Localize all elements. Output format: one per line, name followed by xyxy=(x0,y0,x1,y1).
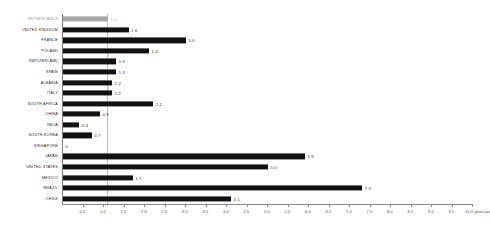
bar-value-label: 0 xyxy=(66,143,68,148)
x-tick-mark xyxy=(124,204,125,207)
x-tick-mark xyxy=(431,204,432,207)
x-tick-mark xyxy=(247,204,248,207)
bar xyxy=(63,38,186,43)
x-tick-mark xyxy=(329,204,330,207)
x-tick-label: 9.0 xyxy=(428,209,434,214)
x-tick-label: 6.0 xyxy=(305,209,311,214)
x-tick-label: 6.5 xyxy=(326,209,332,214)
x-tick-label: 0.5 xyxy=(80,209,86,214)
x-tick-mark xyxy=(206,204,207,207)
bar-row: SWITZERLAND1.3 xyxy=(62,56,472,67)
bar-row: SOUTH AFRICA2.2 xyxy=(62,98,472,109)
bar xyxy=(63,175,133,180)
x-tick-label: 8.0 xyxy=(387,209,393,214)
bar-row: MEXICO1.7 xyxy=(62,172,472,183)
bar-value-label: 1.1 xyxy=(111,17,117,22)
bar-row: UNITED STATES5.0 xyxy=(62,162,472,173)
bar xyxy=(63,69,116,74)
bar xyxy=(63,112,100,117)
x-tick-mark xyxy=(185,204,186,207)
bar-value-label: 3.0 xyxy=(189,38,195,43)
bar-row: SINGAPORE0 xyxy=(62,141,472,152)
bar-value-label: 0.4 xyxy=(82,122,88,127)
x-tick-mark xyxy=(165,204,166,207)
x-axis-unit-label: 10.0 gha/cap xyxy=(465,209,489,214)
bar-rows: NETHERLANDS1.1UNITED KINGDOM1.6FRANCE3.0… xyxy=(62,14,472,204)
category-label: SOUTH AFRICA xyxy=(28,102,58,106)
bar-row: ITALY1.2 xyxy=(62,88,472,99)
bar-row: JAPAN5.9 xyxy=(62,151,472,162)
bar xyxy=(63,196,231,201)
x-tick-label: 4.5 xyxy=(244,209,250,214)
category-label: UNITED KINGDOM xyxy=(22,28,58,32)
bar-value-label: 1.7 xyxy=(135,175,141,180)
category-label: BRAZIL xyxy=(44,186,58,190)
category-label: POLAND xyxy=(41,49,58,53)
category-label: ITALY xyxy=(47,91,58,95)
x-tick-label: 5.5 xyxy=(285,209,291,214)
x-tick-label: 2.5 xyxy=(162,209,168,214)
bar xyxy=(63,27,129,32)
bar-value-label: 1.3 xyxy=(119,59,125,64)
category-label: UNITED STATES xyxy=(26,165,58,169)
bar xyxy=(63,17,108,22)
x-tick-mark xyxy=(226,204,227,207)
x-tick-label: 5.0 xyxy=(264,209,270,214)
x-tick-label: 7.5 xyxy=(367,209,373,214)
bar xyxy=(63,122,79,127)
x-tick-mark xyxy=(390,204,391,207)
bar xyxy=(63,59,116,64)
bar xyxy=(63,101,153,106)
bar-value-label: 1.3 xyxy=(119,70,125,75)
x-tick-mark xyxy=(83,204,84,207)
category-label: SPAIN xyxy=(46,70,58,74)
bar xyxy=(63,133,92,138)
category-label: MEXICO xyxy=(42,176,58,180)
x-tick-mark xyxy=(349,204,350,207)
category-label: CHILE xyxy=(46,197,58,201)
bar-row: SOUTH KOREA0.7 xyxy=(62,130,472,141)
bar-value-label: 1.2 xyxy=(115,80,121,85)
x-tick-label: 8.5 xyxy=(408,209,414,214)
bar-row: FRANCE3.0 xyxy=(62,35,472,46)
x-tick-mark xyxy=(308,204,309,207)
bar-value-label: 5.9 xyxy=(307,154,313,159)
x-axis-ticks: 0.51.01.52.02.53.03.54.04.55.05.56.06.57… xyxy=(62,204,472,224)
bar xyxy=(63,48,149,53)
category-label: CHINA xyxy=(45,112,58,116)
bar xyxy=(63,164,268,169)
bar-value-label: 4.1 xyxy=(234,196,240,201)
bar-row: POLAND1.4 xyxy=(62,46,472,57)
x-tick-label: 9.5 xyxy=(449,209,455,214)
x-tick-label: 1.5 xyxy=(121,209,127,214)
x-tick-label: 3.0 xyxy=(182,209,188,214)
bar xyxy=(63,91,112,96)
category-label: SWITZERLAND xyxy=(29,59,58,63)
bar-value-label: 2.2 xyxy=(156,101,162,106)
x-tick-label: 7.0 xyxy=(346,209,352,214)
category-label: NETHERLANDS xyxy=(28,17,58,21)
category-label: FRANCE xyxy=(41,38,58,42)
category-label: SOUTH KOREA xyxy=(28,133,58,137)
bar-row: ALBANIA1.2 xyxy=(62,77,472,88)
bar-value-label: 1.4 xyxy=(152,48,158,53)
plot-area: NETHERLANDS1.1UNITED KINGDOM1.6FRANCE3.0… xyxy=(62,14,472,206)
bar xyxy=(63,80,112,85)
bar-row: CHILE4.1 xyxy=(62,193,472,204)
bar-value-label: 5.0 xyxy=(271,165,277,170)
bar-row: INDIA0.4 xyxy=(62,120,472,131)
x-tick-label: 3.5 xyxy=(203,209,209,214)
bar-value-label: 0.9 xyxy=(102,112,108,117)
bar-value-label: 1.6 xyxy=(131,27,137,32)
category-label: JAPAN xyxy=(45,154,58,158)
bar xyxy=(63,186,362,191)
x-tick-mark xyxy=(411,204,412,207)
x-tick-label: 2.0 xyxy=(141,209,147,214)
category-label: SINGAPORE xyxy=(34,144,58,148)
x-tick-mark xyxy=(103,204,104,207)
bar-row: SPAIN1.3 xyxy=(62,67,472,78)
x-tick-label: 1.0 xyxy=(100,209,106,214)
bar-value-label: 1.2 xyxy=(115,91,121,96)
bar-value-label: 7.3 xyxy=(365,186,371,191)
